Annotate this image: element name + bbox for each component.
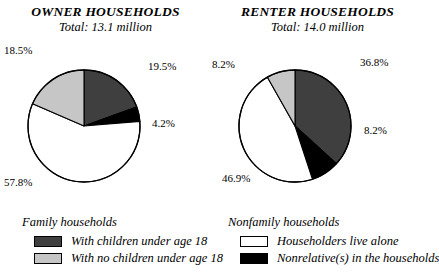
panel-renter-households: RENTER HOUSEHOLDS Total: 14.0 million 8.… [212,0,423,200]
legend-group-family: Family households With children under ag… [22,215,223,267]
renter-pct-no-children: 8.2% [212,58,235,70]
legend-swatch-live-alone [240,236,268,247]
legend-label-no-children: With no children under age 18 [71,252,223,265]
legend-label-nonrelatives: Nonrelative(s) in the households [277,252,439,265]
legend-item-no-children: With no children under age 18 [22,250,223,267]
owner-pie-wrap: 18.5% 19.5% 4.2% 57.8% [0,0,211,200]
legend-swatch-with-children [34,236,62,247]
legend-swatch-nonrelatives [240,253,268,264]
legend-item-nonrelatives: Nonrelative(s) in the households [228,250,439,267]
owner-pct-with-children: 19.5% [148,60,176,72]
legend-heading-family: Family households [22,215,223,230]
renter-pie-wrap: 8.2% 36.8% 8.2% 46.9% [212,0,423,200]
panel-owner-households: OWNER HOUSEHOLDS Total: 13.1 million 18.… [0,0,211,200]
renter-pie-svg [212,0,423,200]
legend-item-with-children: With children under age 18 [22,233,223,250]
legend-item-live-alone: Householders live alone [228,233,439,250]
legend-swatch-no-children [34,253,62,264]
legend: Family households With children under ag… [0,215,423,278]
legend-label-with-children: With children under age 18 [71,235,207,248]
renter-pct-with-children: 36.8% [360,56,388,68]
legend-group-nonfamily: Nonfamily households Householders live a… [228,215,439,267]
owner-pct-no-children: 18.5% [4,44,32,56]
owner-pct-nonrelatives: 4.2% [152,117,175,129]
owner-pct-live-alone: 57.8% [4,176,32,188]
renter-pct-nonrelatives: 8.2% [364,124,387,136]
renter-pct-live-alone: 46.9% [222,172,250,184]
owner-pie-svg [0,0,211,200]
legend-label-live-alone: Householders live alone [277,235,399,248]
legend-heading-nonfamily: Nonfamily households [228,215,439,230]
